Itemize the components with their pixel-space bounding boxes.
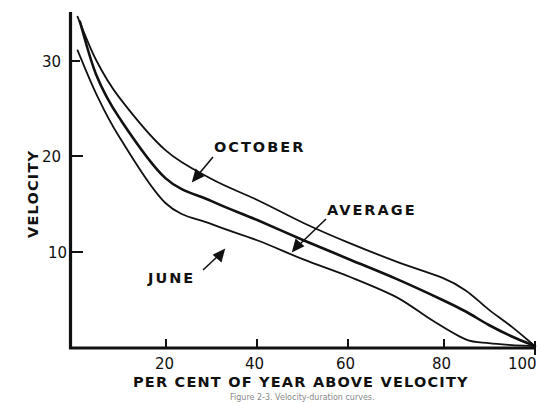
y-tick-label-30: 30 xyxy=(42,53,61,71)
average-label: AVERAGE xyxy=(327,202,417,218)
june-label: JUNE xyxy=(147,270,195,286)
x-tick-label-60: 60 xyxy=(336,355,355,373)
y-axis-title: VELOCITY xyxy=(25,150,41,238)
x-axis-title: PER CENT OF YEAR ABOVE VELOCITY xyxy=(133,374,469,390)
x-tick-label-20: 20 xyxy=(155,355,174,373)
curves xyxy=(78,17,535,346)
x-tick-label-100: 100 xyxy=(508,355,537,373)
y-tick-label-10: 10 xyxy=(48,244,67,262)
y-tick-label-20: 20 xyxy=(42,148,61,166)
velocity-duration-chart: 30 20 10 20 40 60 80 100 PER CENT OF YEA… xyxy=(0,0,553,403)
october-curve xyxy=(78,17,535,346)
june-arrow xyxy=(203,250,224,270)
x-tick-label-40: 40 xyxy=(245,355,264,373)
october-label: OCTOBER xyxy=(214,139,305,155)
x-tick-label-80: 80 xyxy=(432,355,451,373)
june-curve xyxy=(78,50,535,346)
average-curve xyxy=(80,22,535,347)
figure-caption: Figure 2-3. Velocity-duration curves. xyxy=(230,393,375,402)
